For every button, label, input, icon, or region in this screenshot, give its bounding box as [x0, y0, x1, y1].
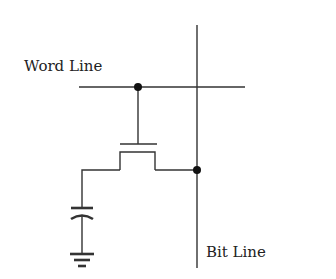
channel	[120, 152, 155, 170]
bit-line-label: Bit Line	[206, 243, 266, 261]
source-wire	[82, 170, 120, 208]
storage-capacitor-icon	[71, 208, 93, 254]
word-line-node	[134, 83, 142, 91]
dram-cell-diagram	[0, 0, 336, 279]
access-transistor	[120, 87, 157, 170]
ground-icon	[70, 254, 94, 266]
word-line-label: Word Line	[24, 57, 102, 75]
bit-line-node	[193, 166, 201, 174]
